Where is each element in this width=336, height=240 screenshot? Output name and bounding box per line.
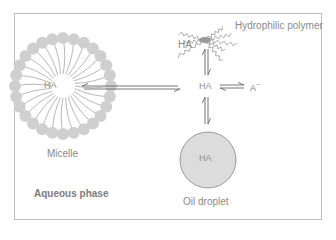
conjugate-base-label: A−: [250, 81, 260, 93]
micelle-label: Micelle: [47, 148, 78, 159]
conjugate-base-charge: −: [256, 81, 260, 88]
aqueous-ha-label: HA: [199, 81, 212, 91]
droplet-core-label: HA: [199, 153, 212, 163]
aqueous-phase-label: Aqueous phase: [34, 188, 108, 199]
polymer-label: Hydrophilic polymer: [235, 20, 323, 31]
dissociation-equilibrium-arrow: [220, 83, 244, 91]
oil-droplet-label: Oil droplet: [183, 196, 229, 207]
micelle-core-label: HA: [44, 80, 57, 90]
droplet-equilibrium-arrow: [203, 97, 211, 124]
polymer-equilibrium-arrow: [203, 49, 211, 75]
polymer-bound-ha-label: HA: [178, 39, 192, 50]
